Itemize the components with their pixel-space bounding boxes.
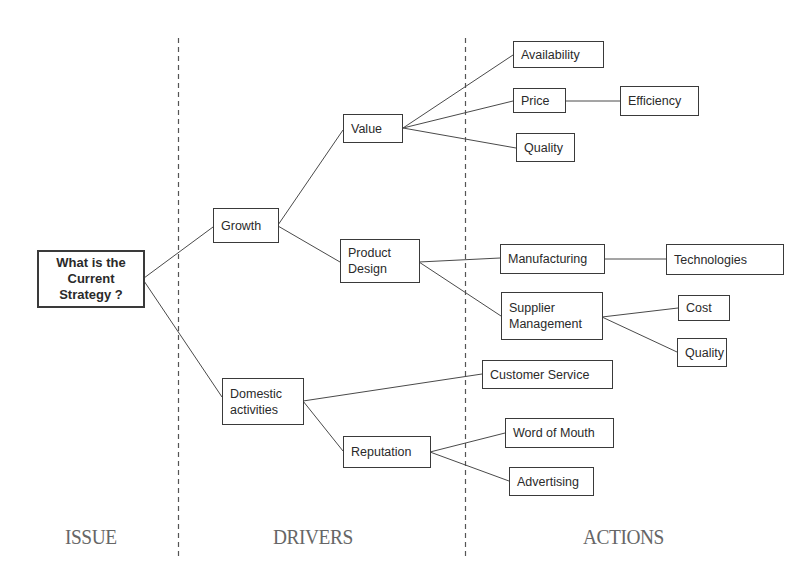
node-domestic-activities: Domestic activities <box>222 378 304 425</box>
node-cost: Cost <box>678 295 730 321</box>
node-price: Price <box>513 88 566 113</box>
issue-tree-diagram: What is the Current Strategy ? Growth Do… <box>0 0 799 581</box>
node-growth: Growth <box>213 208 279 243</box>
edge-reputation-advertising <box>430 452 509 481</box>
node-technologies: Technologies <box>666 244 784 275</box>
node-current-strategy: What is the Current Strategy ? <box>37 250 145 308</box>
edge-value-availability <box>403 55 513 128</box>
edge-reputation-word-of-mouth <box>430 433 505 452</box>
node-product-design: Product Design <box>340 239 420 283</box>
node-manufacturing: Manufacturing <box>500 244 605 274</box>
column-label-drivers: DRIVERS <box>273 524 353 550</box>
node-quality-supplier: Quality <box>677 338 727 367</box>
edge-growth-value <box>278 130 343 225</box>
edge-supplier-cost <box>602 308 678 317</box>
node-value: Value <box>343 114 403 143</box>
node-availability: Availability <box>513 41 604 68</box>
node-supplier-management: Supplier Management <box>501 292 603 340</box>
column-label-issue: ISSUE <box>65 524 117 550</box>
edge-domestic-reputation <box>303 401 343 451</box>
edge-growth-product <box>278 226 340 262</box>
node-quality-value: Quality <box>516 133 575 162</box>
node-reputation: Reputation <box>343 436 431 468</box>
edge-product-manufacturing <box>419 258 500 262</box>
node-efficiency: Efficiency <box>620 86 699 116</box>
node-advertising: Advertising <box>509 467 594 496</box>
edge-root-domestic <box>144 281 222 397</box>
edge-value-quality <box>403 128 516 148</box>
edge-supplier-quality <box>602 317 677 352</box>
edge-root-growth <box>144 227 213 278</box>
edge-product-supplier <box>419 262 501 316</box>
node-customer-service: Customer Service <box>482 360 613 389</box>
column-label-actions: ACTIONS <box>583 524 664 550</box>
node-word-of-mouth: Word of Mouth <box>505 418 614 448</box>
edge-value-price <box>403 101 513 128</box>
edge-domestic-customer-service <box>303 374 482 401</box>
